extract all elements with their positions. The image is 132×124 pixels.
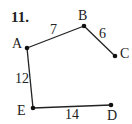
label-c: C <box>120 46 129 61</box>
point-b <box>82 24 87 29</box>
label-e: E <box>17 103 26 118</box>
problem-number: 11. <box>11 9 29 25</box>
label-d: D <box>107 108 117 123</box>
length-ae: 12 <box>15 71 29 86</box>
point-a <box>25 46 30 51</box>
length-bc: 6 <box>99 26 106 41</box>
length-ed: 14 <box>65 107 79 122</box>
point-e <box>31 106 36 111</box>
label-b: B <box>78 8 87 23</box>
length-ab: 7 <box>50 22 57 37</box>
label-a: A <box>12 36 23 51</box>
point-d <box>109 103 114 108</box>
point-c <box>113 54 118 59</box>
diagram: 11. A B C D E 7 6 12 14 <box>0 0 132 124</box>
